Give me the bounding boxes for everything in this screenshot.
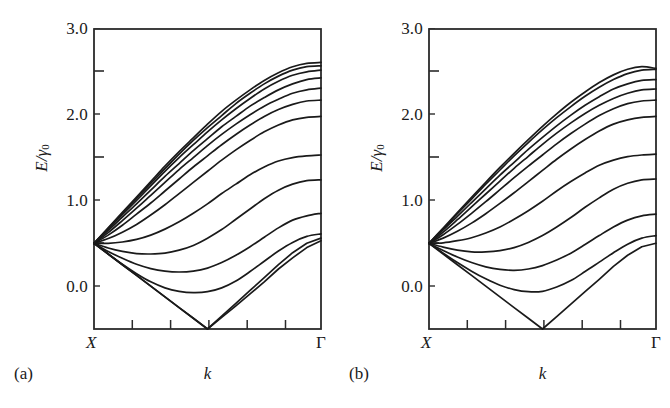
y-tick-label-1: 1.0 <box>381 192 423 209</box>
y-tick-label-1: 1.0 <box>46 192 88 209</box>
band-curve <box>429 80 656 244</box>
band-curves-a <box>94 62 321 329</box>
band-plot-a <box>93 28 322 330</box>
panel-caption-b: (b) <box>349 364 369 384</box>
band-curve <box>94 241 321 329</box>
band-curve <box>429 116 656 243</box>
x-axis-title-b: k <box>428 364 657 384</box>
y-tick-label-2: 2.0 <box>381 106 423 123</box>
band-plot-b <box>428 28 657 330</box>
plot-area-b <box>428 28 657 330</box>
band-curve <box>429 214 656 270</box>
panel-caption-a: (a) <box>14 364 33 384</box>
band-curve <box>429 154 656 243</box>
y-tick-labels-b: 3.0 2.0 1.0 0.0 <box>378 28 423 330</box>
y-tick-label-0: 0.0 <box>381 278 423 295</box>
y-tick-label-0: 0.0 <box>46 278 88 295</box>
plot-area-a <box>93 28 322 330</box>
x-axis-left-label-b: X <box>421 334 431 352</box>
y-tick-labels-a: 3.0 2.0 1.0 0.0 <box>43 28 88 330</box>
band-curves-b <box>429 67 656 329</box>
x-axis-right-label-b: Γ <box>651 334 661 352</box>
band-curve <box>94 116 321 243</box>
panel-a: E/γ0 3.0 2.0 1.0 0.0 <box>0 0 335 408</box>
band-curve <box>94 78 321 243</box>
y-tick-label-2: 2.0 <box>46 106 88 123</box>
plot-frame <box>94 29 321 329</box>
x-axis-left-label-a: X <box>86 334 96 352</box>
band-structure-figure: E/γ0 3.0 2.0 1.0 0.0 <box>0 0 670 408</box>
y-major-ticks <box>429 71 439 243</box>
y-tick-label-3: 3.0 <box>46 20 88 37</box>
y-major-ticks <box>94 71 104 243</box>
band-curve <box>429 243 656 329</box>
panel-b: E/γ0 3.0 2.0 1.0 0.0 <box>335 0 670 408</box>
y-tick-label-3: 3.0 <box>381 20 423 37</box>
x-axis-right-label-a: Γ <box>316 334 326 352</box>
x-axis-title-a: k <box>93 364 322 384</box>
band-curve <box>94 180 321 254</box>
plot-frame <box>429 29 656 329</box>
band-curve <box>429 236 656 292</box>
